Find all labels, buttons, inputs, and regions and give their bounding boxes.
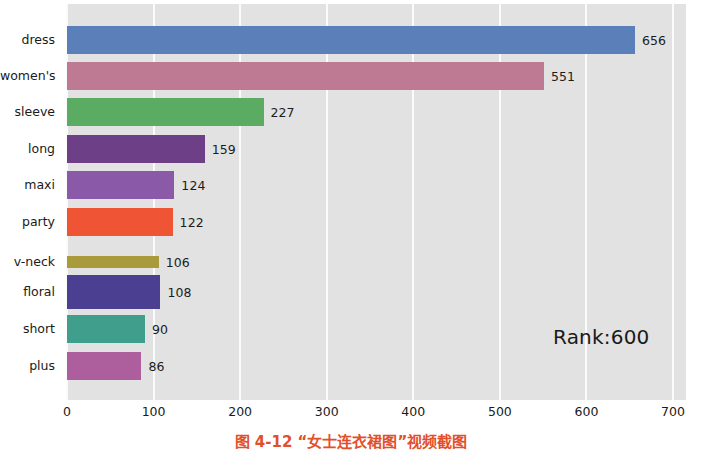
y-tick-womens: women's bbox=[0, 69, 61, 82]
y-tick-long: long bbox=[0, 142, 61, 155]
bar-value-label: 108 bbox=[167, 285, 191, 300]
bar-value-label: 124 bbox=[181, 178, 205, 193]
y-tick-plus: plus bbox=[0, 359, 61, 372]
y-tick-maxi: maxi bbox=[0, 178, 61, 191]
y-tick-party: party bbox=[0, 215, 61, 228]
bar-floral bbox=[67, 275, 160, 309]
x-axis-tick-labels: 0100200300400500600700 bbox=[67, 402, 686, 426]
y-tick-dress: dress bbox=[0, 33, 61, 46]
x-tick-400: 400 bbox=[401, 404, 425, 419]
bar-party bbox=[67, 208, 173, 236]
bar-value-label: 86 bbox=[148, 359, 164, 374]
bar-value-label: 122 bbox=[180, 215, 204, 230]
x-tick-200: 200 bbox=[228, 404, 252, 419]
y-axis-tick-labels: dresswomen'ssleevelongmaxipartyv-neckflo… bbox=[0, 4, 61, 400]
y-tick-vneck: v-neck bbox=[0, 255, 61, 268]
bar-value-label: 551 bbox=[551, 69, 575, 84]
bar-long bbox=[67, 135, 205, 163]
bar-womens bbox=[67, 62, 544, 90]
bar-maxi bbox=[67, 171, 174, 199]
bar-dress bbox=[67, 26, 635, 54]
x-tick-700: 700 bbox=[661, 404, 685, 419]
y-tick-sleeve: sleeve bbox=[0, 105, 61, 118]
y-tick-short: short bbox=[0, 322, 61, 335]
y-tick-floral: floral bbox=[0, 285, 61, 298]
bar-value-label: 106 bbox=[166, 255, 190, 270]
bar-value-label: 159 bbox=[212, 142, 236, 157]
x-tick-600: 600 bbox=[575, 404, 599, 419]
bar-value-label: 227 bbox=[271, 105, 295, 120]
bar-sleeve bbox=[67, 98, 264, 126]
bar-vneck bbox=[67, 256, 159, 268]
x-tick-300: 300 bbox=[315, 404, 339, 419]
x-tick-0: 0 bbox=[63, 404, 71, 419]
x-tick-100: 100 bbox=[142, 404, 166, 419]
bar-value-label: 656 bbox=[642, 33, 666, 48]
bar-plus bbox=[67, 352, 141, 380]
x-tick-500: 500 bbox=[488, 404, 512, 419]
bar-short bbox=[67, 315, 145, 343]
bar-value-label: 90 bbox=[152, 322, 168, 337]
rank-annotation: Rank:600 bbox=[553, 325, 649, 349]
figure-caption: 图 4-12 “女士连衣裙图”视频截图 bbox=[0, 430, 702, 451]
